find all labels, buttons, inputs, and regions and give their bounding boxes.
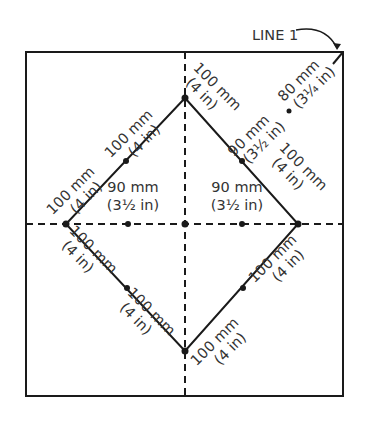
label-center-left-mm: 90 mm [107,179,158,195]
label-right-edge: 100 mm (4 in) [265,139,330,204]
pattern-diagram: LINE 1 100 mm (4 in) 100 mm (4 in) 100 m… [0,0,366,421]
vertex-top-dot [182,95,189,102]
mid-left-dot [125,221,131,227]
corner-diag-dot [287,109,292,114]
label-center-left-in: (3½ in) [107,197,159,213]
center-dot [182,221,189,228]
label-upper-right-outer: 100 mm (4 in) [179,59,244,124]
line-1-tick [333,52,343,64]
label-lower-left-outer: 100 mm (4 in) [55,222,120,287]
line-1-leader [296,29,337,48]
line-1-label: LINE 1 [252,27,298,43]
label-lower-right-inner: 100 mm (4 in) [187,314,252,379]
label-lower-left-inner: 100 mm (4 in) [113,284,178,349]
label-upper-left-outer: 100 mm (4 in) [43,163,108,228]
label-center-right-mm: 90 mm [211,179,262,195]
vertex-bottom-dot [182,348,189,355]
edge-ul-dot [123,158,129,164]
edge-lr-dot [240,285,246,291]
label-corner-diag: 80 mm (3¼ in) [275,52,339,116]
label-upper-left-inner: 100 mm (4 in) [101,106,166,171]
label-center-right-in: (3½ in) [211,197,263,213]
vertex-right-dot [295,221,302,228]
mid-right-dot [239,221,245,227]
label-lower-right-outer: 100 mm (4 in) [245,231,310,296]
leader-arrowhead-icon [333,43,341,50]
vertex-left-dot [63,221,70,228]
